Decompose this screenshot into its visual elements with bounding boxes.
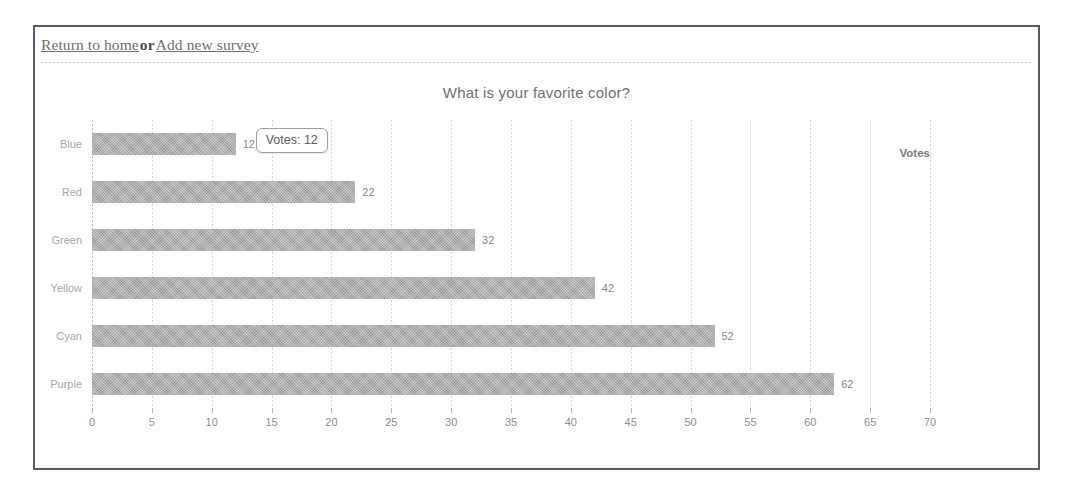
x-axis-tick <box>212 408 213 413</box>
x-axis-tick <box>631 408 632 413</box>
gridline <box>331 120 332 408</box>
bar[interactable] <box>92 277 595 299</box>
category-label: Yellow <box>51 282 82 294</box>
bar-row: Cyan52 <box>92 325 930 347</box>
return-to-home-link[interactable]: Return to home <box>41 36 139 53</box>
bar-row: Green32 <box>92 229 930 251</box>
gridline <box>571 120 572 408</box>
x-axis-tick-label: 40 <box>551 416 591 428</box>
gridline <box>930 120 931 408</box>
category-label: Cyan <box>56 330 82 342</box>
plot-area: Votes 0510152025303540455055606570Blue12… <box>92 120 930 408</box>
x-axis-tick-label: 45 <box>611 416 651 428</box>
category-label: Blue <box>60 138 82 150</box>
x-axis-tick <box>870 408 871 413</box>
gridline <box>631 120 632 408</box>
x-axis-tick <box>691 408 692 413</box>
x-axis-tick-label: 25 <box>371 416 411 428</box>
bar[interactable] <box>92 373 834 395</box>
bar-value-label: 62 <box>841 378 853 390</box>
bar-row: Yellow42 <box>92 277 930 299</box>
x-axis-tick-label: 20 <box>311 416 351 428</box>
bar[interactable] <box>92 181 355 203</box>
x-axis-tick-label: 70 <box>910 416 950 428</box>
category-label: Red <box>62 186 82 198</box>
x-axis-tick <box>930 408 931 413</box>
bar-chart: What is your favorite color? Votes 05101… <box>35 64 1038 470</box>
header-divider <box>41 62 1032 63</box>
bar[interactable] <box>92 133 236 155</box>
x-axis-tick-label: 35 <box>491 416 531 428</box>
x-axis-tick <box>272 408 273 413</box>
x-axis-tick-label: 10 <box>192 416 232 428</box>
bar-value-label: 42 <box>602 282 614 294</box>
gridline <box>212 120 213 408</box>
x-axis-tick-label: 0 <box>72 416 112 428</box>
x-axis-tick-label: 60 <box>790 416 830 428</box>
gridline <box>92 120 93 408</box>
x-axis-tick-label: 5 <box>132 416 172 428</box>
x-axis-tick-label: 55 <box>730 416 770 428</box>
tooltip-text: Votes: 12 <box>266 133 318 147</box>
x-axis-tick <box>750 408 751 413</box>
bar-value-label: 52 <box>722 330 734 342</box>
bar[interactable] <box>92 325 715 347</box>
bar-row: Purple62 <box>92 373 930 395</box>
gridline <box>272 120 273 408</box>
bar[interactable] <box>92 229 475 251</box>
x-axis-tick-label: 30 <box>431 416 471 428</box>
x-axis-tick <box>391 408 392 413</box>
page-root: Return to homeorAdd new survey What is y… <box>0 0 1078 494</box>
category-label: Green <box>51 234 82 246</box>
bar-tooltip: Votes: 12 <box>256 128 328 153</box>
gridline <box>750 120 751 408</box>
gridline <box>451 120 452 408</box>
bar-row: Red22 <box>92 181 930 203</box>
x-axis-tick <box>571 408 572 413</box>
x-axis-tick-label: 50 <box>671 416 711 428</box>
x-axis-tick <box>451 408 452 413</box>
gridline <box>511 120 512 408</box>
gridline <box>691 120 692 408</box>
x-axis-tick <box>152 408 153 413</box>
add-new-survey-link[interactable]: Add new survey <box>156 36 259 53</box>
panel-header: Return to homeorAdd new survey <box>35 27 1038 64</box>
x-axis-tick-label: 65 <box>850 416 890 428</box>
category-label: Purple <box>50 378 82 390</box>
bar-value-label: 12 <box>243 138 255 150</box>
bar-row: Blue12 <box>92 133 930 155</box>
gridline <box>810 120 811 408</box>
chart-title: What is your favorite color? <box>35 84 1038 101</box>
gridline <box>391 120 392 408</box>
x-axis-tick <box>92 408 93 413</box>
breadcrumb: Return to homeorAdd new survey <box>41 36 259 54</box>
x-axis-tick-label: 15 <box>252 416 292 428</box>
x-axis-tick <box>511 408 512 413</box>
bar-value-label: 32 <box>482 234 494 246</box>
x-axis-tick <box>810 408 811 413</box>
survey-results-panel: Return to homeorAdd new survey What is y… <box>33 25 1040 470</box>
gridline <box>152 120 153 408</box>
nav-separator: or <box>139 36 156 53</box>
bar-value-label: 22 <box>362 186 374 198</box>
gridline <box>870 120 871 408</box>
x-axis-tick <box>331 408 332 413</box>
